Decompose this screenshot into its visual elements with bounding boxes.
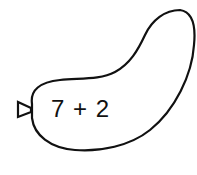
balloon-knot-icon [18,102,31,117]
math-expression: 7 + 2 [51,95,110,123]
balloon-diagram [0,0,197,175]
balloon-outline [32,10,195,150]
